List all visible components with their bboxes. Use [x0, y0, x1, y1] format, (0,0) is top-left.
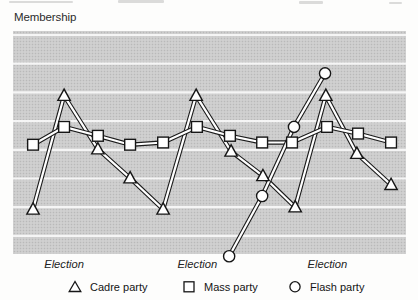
legend-item-mass-party: Mass party	[182, 279, 258, 294]
marker-square	[353, 128, 364, 139]
legend-label-mass-party: Mass party	[204, 281, 258, 293]
marker-square	[386, 137, 397, 148]
marker-square	[158, 137, 169, 148]
marker-square	[92, 130, 103, 141]
marker-square	[257, 137, 268, 148]
circle-marker-icon	[288, 280, 302, 293]
x-axis-label-election-1: Election	[44, 258, 84, 270]
series-line-outline-cadre-party	[33, 96, 391, 210]
marker-square	[192, 121, 203, 132]
marker-circle	[224, 251, 235, 262]
marker-square	[225, 130, 236, 141]
marker-square	[287, 137, 298, 148]
marker-circle	[319, 68, 330, 79]
legend-item-cadre-party: Cadre party	[68, 279, 147, 294]
chart-canvas	[0, 0, 418, 300]
chart-figure: Membership Election Election Election Ca…	[0, 0, 418, 300]
legend: Cadre party Mass party Flash party	[0, 279, 418, 295]
marker-square	[28, 139, 39, 150]
marker-square	[322, 121, 333, 132]
marker-triangle	[320, 89, 332, 100]
legend-label-cadre-party: Cadre party	[90, 281, 147, 293]
legend-label-flash-party: Flash party	[310, 281, 364, 293]
marker-circle	[257, 190, 268, 201]
marker-square	[59, 121, 70, 132]
x-axis-label-election-2: Election	[177, 258, 217, 270]
marker-triangle	[190, 89, 202, 100]
marker-triangle	[27, 203, 39, 214]
legend-item-flash-party: Flash party	[288, 279, 364, 294]
square-marker-icon	[182, 280, 196, 293]
triangle-marker-icon	[68, 280, 82, 293]
x-axis-label-election-3: Election	[307, 258, 347, 270]
marker-triangle	[58, 89, 70, 100]
marker-square	[125, 139, 136, 150]
marker-circle	[288, 121, 299, 132]
